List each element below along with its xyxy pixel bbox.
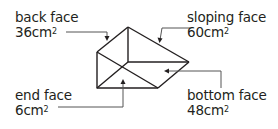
area-value: 36 xyxy=(15,24,32,40)
area-unit: cm xyxy=(204,24,224,40)
area-unit: cm xyxy=(204,102,224,118)
label-area: 36cm2 xyxy=(15,25,78,40)
label-name: back face xyxy=(15,10,78,25)
arrowheads xyxy=(105,36,170,84)
area-exponent: 2 xyxy=(44,105,49,114)
area-value: 48 xyxy=(187,102,204,118)
sloping-face-label: sloping face 60cm2 xyxy=(187,10,266,40)
prism-edge xyxy=(158,62,189,88)
arrow-icon xyxy=(158,38,163,44)
label-area: 48cm2 xyxy=(187,103,267,118)
area-exponent: 2 xyxy=(224,105,229,114)
prism-edge xyxy=(97,27,128,52)
arrow-icon xyxy=(121,79,126,84)
label-name: sloping face xyxy=(187,10,266,25)
sloping-face-leader xyxy=(160,28,190,40)
label-area: 60cm2 xyxy=(187,25,266,40)
end-face-label: end face 6cm2 xyxy=(15,88,72,118)
label-area: 6cm2 xyxy=(15,103,72,118)
area-unit: cm xyxy=(32,24,52,40)
area-value: 60 xyxy=(187,24,204,40)
label-name: end face xyxy=(15,88,72,103)
area-exponent: 2 xyxy=(224,27,229,36)
back-face-label: back face 36cm2 xyxy=(15,10,78,40)
area-exponent: 2 xyxy=(52,27,57,36)
bottom-face-label: bottom face 48cm2 xyxy=(187,88,267,118)
arrow-icon xyxy=(164,69,169,74)
label-name: bottom face xyxy=(187,88,267,103)
arrow-icon xyxy=(105,36,110,41)
prism xyxy=(97,27,189,88)
area-unit: cm xyxy=(23,102,43,118)
prism-edge xyxy=(128,27,189,62)
